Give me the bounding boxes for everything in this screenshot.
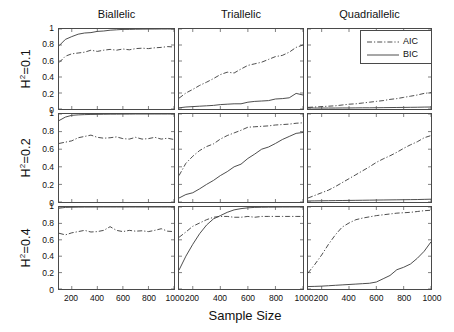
series-line-aic bbox=[179, 45, 303, 98]
series-line-aic bbox=[59, 47, 174, 63]
ytick-r1-3: 0.6 bbox=[30, 56, 54, 66]
ytick-r2-4: 0.8 bbox=[30, 126, 54, 136]
xtick-c3-3: 800 bbox=[390, 293, 418, 303]
panel-plot bbox=[59, 29, 175, 110]
panel-plot bbox=[179, 29, 304, 110]
xtick-c2-1: 400 bbox=[206, 293, 234, 303]
ytick-r1-5: 1 bbox=[30, 23, 54, 33]
series-line-aic bbox=[179, 216, 303, 237]
xtick-c2-3: 800 bbox=[262, 293, 290, 303]
panel-H201-biallelic bbox=[58, 28, 175, 110]
figure-root: BiallelicTriallelicQuadriallelicH2=0.1H2… bbox=[0, 0, 454, 332]
xtick-c3-2: 600 bbox=[362, 293, 390, 303]
column-title-2: Triallelic bbox=[178, 8, 304, 20]
series-line-bic bbox=[308, 107, 431, 108]
column-title-1: Biallelic bbox=[58, 8, 175, 20]
series-line-aic bbox=[308, 93, 431, 108]
xtick-c2-0: 200 bbox=[178, 293, 206, 303]
ytick-r3-3: 0.6 bbox=[30, 235, 54, 245]
panel-H202-quadriallelic bbox=[307, 113, 432, 203]
xtick-c1-2: 600 bbox=[109, 293, 137, 303]
row-label-sup: 2 bbox=[18, 75, 27, 80]
series-line-bic bbox=[179, 207, 303, 270]
panel-plot bbox=[59, 207, 175, 290]
ytick-r3-4: 0.8 bbox=[30, 218, 54, 228]
ytick-r2-5: 1 bbox=[30, 108, 54, 118]
panel-H204-biallelic bbox=[58, 206, 175, 290]
panel-H202-biallelic bbox=[58, 113, 175, 203]
ytick-r3-2: 0.4 bbox=[30, 251, 54, 261]
panel-H202-triallelic bbox=[178, 113, 304, 203]
row-label-sup: 2 bbox=[18, 164, 27, 169]
series-line-bic bbox=[179, 132, 303, 198]
row-label-sup: 2 bbox=[18, 254, 27, 259]
panel-plot bbox=[179, 207, 304, 290]
series-line-aic bbox=[59, 227, 174, 235]
xtick-c1-3: 800 bbox=[135, 293, 163, 303]
panel-H204-triallelic bbox=[178, 206, 304, 290]
column-title-3: Quadriallelic bbox=[307, 8, 432, 20]
panel-H204-quadriallelic bbox=[307, 206, 432, 290]
xtick-c3-0: 200 bbox=[307, 293, 335, 303]
legend-sample-lines bbox=[361, 31, 433, 65]
series-line-aic bbox=[59, 135, 174, 143]
legend-label-bic: BIC bbox=[403, 49, 418, 59]
series-line-bic bbox=[59, 207, 174, 208]
xtick-c1-0: 200 bbox=[57, 293, 85, 303]
ytick-r1-2: 0.4 bbox=[30, 72, 54, 82]
panel-plot bbox=[59, 114, 175, 203]
ytick-r3-1: 0.2 bbox=[30, 268, 54, 278]
legend: AICBIC bbox=[360, 30, 432, 64]
panel-plot bbox=[308, 114, 432, 203]
legend-label-aic: AIC bbox=[403, 36, 418, 46]
ytick-r2-3: 0.6 bbox=[30, 144, 54, 154]
xaxis-title: Sample Size bbox=[58, 308, 432, 323]
ytick-r2-2: 0.4 bbox=[30, 162, 54, 172]
series-line-bic bbox=[59, 114, 174, 121]
xtick-c2-2: 600 bbox=[234, 293, 262, 303]
ytick-r2-1: 0.2 bbox=[30, 180, 54, 190]
series-line-bic bbox=[308, 242, 431, 287]
xtick-c3-4: 1000 bbox=[418, 293, 446, 303]
ytick-r1-4: 0.8 bbox=[30, 39, 54, 49]
ytick-r3-0: 0 bbox=[30, 285, 54, 295]
series-line-aic bbox=[179, 123, 303, 176]
series-line-bic bbox=[308, 199, 431, 201]
ytick-r3-5: 1 bbox=[30, 201, 54, 211]
xtick-c1-1: 400 bbox=[83, 293, 111, 303]
series-line-bic bbox=[179, 93, 303, 107]
panel-plot bbox=[179, 114, 304, 203]
series-line-aic bbox=[308, 210, 431, 273]
series-line-bic bbox=[59, 29, 174, 46]
panel-plot bbox=[308, 207, 432, 290]
panel-H201-triallelic bbox=[178, 28, 304, 110]
series-line-aic bbox=[308, 136, 431, 198]
ytick-r1-1: 0.2 bbox=[30, 89, 54, 99]
xtick-c3-1: 400 bbox=[335, 293, 363, 303]
